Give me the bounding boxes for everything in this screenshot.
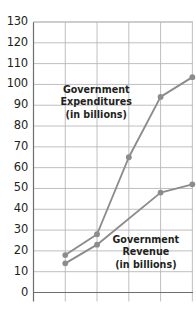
data-point-marker [158,94,164,100]
data-point-marker [94,242,100,248]
revenue-label: GovernmentRevenue(in billions) [113,234,180,271]
revenue-label-line: (in billions) [113,259,180,271]
data-point-marker [62,252,68,258]
expenditures-label: GovernmentExpenditures(in billions) [61,84,132,121]
data-point-marker [158,190,164,196]
expenditures-label-line: (in billions) [61,109,132,121]
data-point-marker [126,154,132,160]
line-chart: 1301201101009080706050403020100 Governme… [0,0,196,322]
y-tick-label: 120 [0,37,28,49]
data-point-marker [189,74,195,80]
y-tick-label: 70 [0,141,28,153]
y-tick-label: 0 [0,287,28,299]
expenditures-label-line: Expenditures [61,96,132,108]
y-tick-label: 10 [0,266,28,278]
y-tick-label: 50 [0,182,28,194]
y-tick-label: 90 [0,99,28,111]
y-tick-label: 20 [0,245,28,257]
expenditures-label-line: Government [61,84,132,96]
data-point-marker [62,260,68,266]
data-point-marker [189,181,195,187]
y-tick-label: 40 [0,203,28,215]
data-point-marker [94,231,100,237]
y-tick-label: 130 [0,16,28,28]
y-tick-label: 30 [0,224,28,236]
y-tick-label: 100 [0,78,28,90]
revenue-label-line: Government [113,234,180,246]
chart-canvas [0,0,196,322]
y-tick-label: 80 [0,120,28,132]
y-tick-label: 110 [0,58,28,70]
y-tick-label: 60 [0,162,28,174]
revenue-label-line: Revenue [113,246,180,258]
